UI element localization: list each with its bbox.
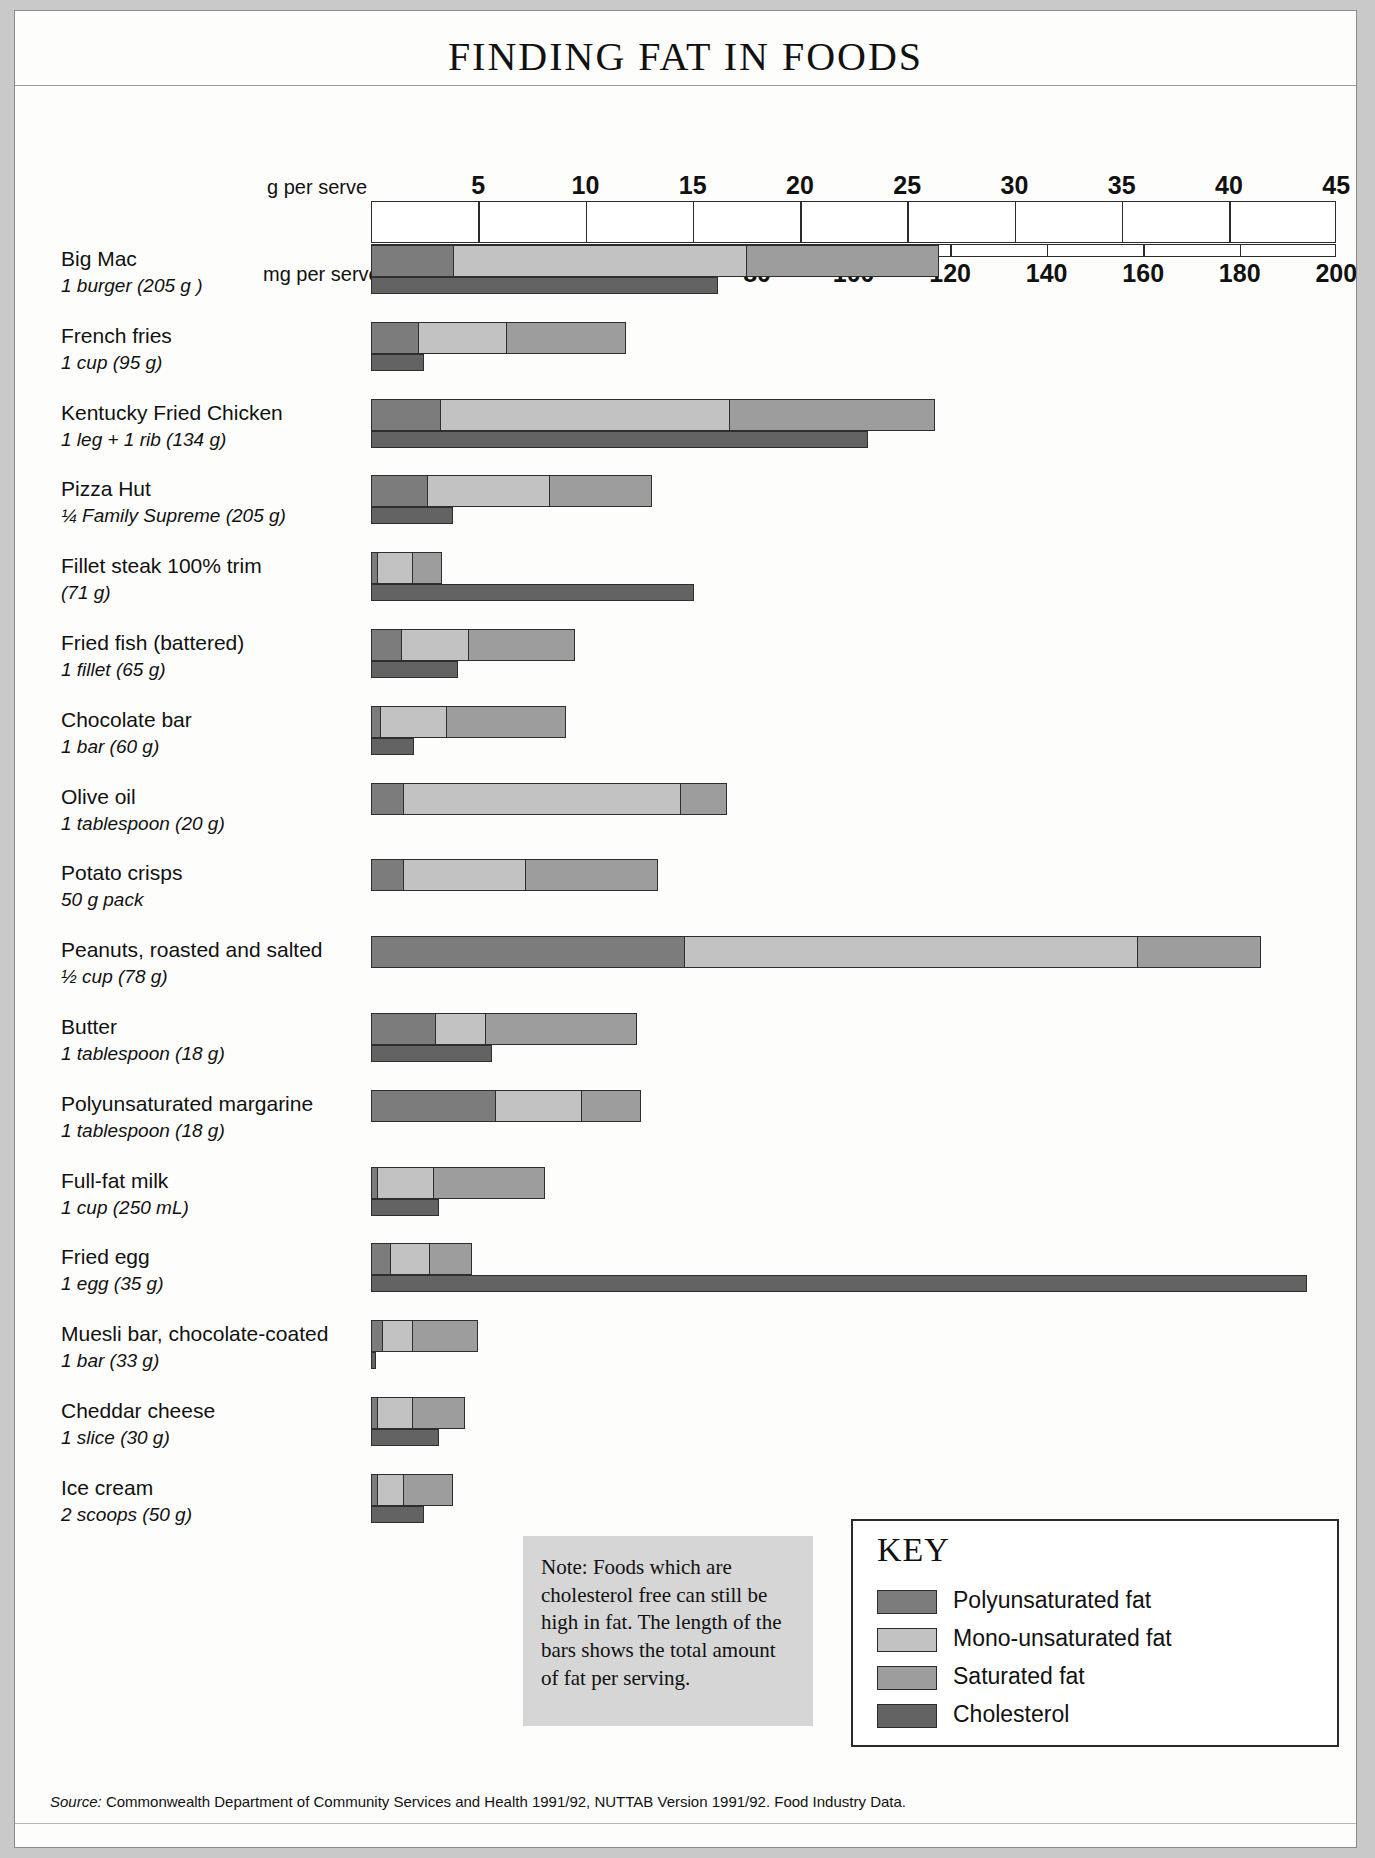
serving-size: (71 g)	[61, 582, 111, 604]
food-name: Peanuts, roasted and salted	[61, 938, 323, 962]
serving-size: 1 tablespoon (18 g)	[61, 1043, 225, 1065]
cholesterol-bar[interactable]	[371, 354, 424, 371]
fat-bar[interactable]	[371, 322, 626, 354]
g-tick-label: 40	[1215, 171, 1243, 200]
g-gridline	[1015, 201, 1017, 243]
fat-bar[interactable]	[371, 1243, 472, 1275]
segment-polyunsaturated	[371, 1243, 390, 1275]
serving-size: ¼ Family Supreme (205 g)	[61, 505, 286, 527]
g-gridline	[1229, 201, 1231, 243]
segment-saturated	[506, 322, 626, 354]
segment-mono-unsaturated	[440, 399, 730, 431]
g-gridline	[907, 201, 909, 243]
fat-bar[interactable]	[371, 859, 658, 891]
segment-mono-unsaturated	[377, 1167, 433, 1199]
g-gridline	[1122, 201, 1124, 243]
segment-polyunsaturated	[371, 1013, 435, 1045]
legend-swatch	[877, 1590, 937, 1614]
legend-title: KEY	[877, 1531, 950, 1569]
cholesterol-bar[interactable]	[371, 661, 458, 678]
cholesterol-bar[interactable]	[371, 1506, 424, 1523]
cholesterol-bar[interactable]	[371, 431, 868, 448]
chart-row: Peanuts, roasted and salted½ cup (78 g)	[15, 964, 1356, 1041]
g-tick-label: 10	[572, 171, 600, 200]
cholesterol-bar[interactable]	[371, 277, 718, 294]
segment-saturated	[485, 1013, 637, 1045]
serving-size: 1 bar (60 g)	[61, 736, 159, 758]
cholesterol-bar[interactable]	[371, 507, 453, 524]
food-name: Potato crisps	[61, 861, 182, 885]
title-divider	[15, 85, 1356, 86]
cholesterol-bar[interactable]	[371, 584, 694, 601]
g-gridline	[478, 201, 480, 243]
segment-cholesterol	[371, 431, 868, 448]
fat-bar[interactable]	[371, 399, 935, 431]
serving-size: 1 burger (205 g )	[61, 275, 203, 297]
fat-bar[interactable]	[371, 783, 727, 815]
segment-mono-unsaturated	[377, 552, 411, 584]
fat-bar[interactable]	[371, 475, 652, 507]
fat-bar[interactable]	[371, 1013, 637, 1045]
cholesterol-bar[interactable]	[371, 1275, 1307, 1292]
g-tick-label: 20	[786, 171, 814, 200]
chart-row: Fried fish (battered)1 fillet (65 g)	[15, 657, 1356, 734]
segment-cholesterol	[371, 507, 453, 524]
legend-swatch	[877, 1666, 937, 1690]
fat-bar[interactable]	[371, 552, 442, 584]
fat-bar[interactable]	[371, 1397, 465, 1429]
legend: KEY Polyunsaturated fatMono-unsaturated …	[851, 1519, 1339, 1747]
segment-cholesterol	[371, 1275, 1307, 1292]
segment-polyunsaturated	[371, 783, 403, 815]
food-name: Full-fat milk	[61, 1169, 168, 1193]
fat-bar[interactable]	[371, 245, 939, 277]
serving-size: 1 cup (95 g)	[61, 352, 162, 374]
segment-cholesterol	[371, 1199, 439, 1216]
fat-bar[interactable]	[371, 1167, 545, 1199]
segment-mono-unsaturated	[390, 1243, 429, 1275]
cholesterol-bar[interactable]	[371, 1429, 439, 1446]
chart-row: Big Mac1 burger (205 g )	[15, 273, 1356, 350]
segment-polyunsaturated	[371, 1320, 382, 1352]
fat-bar[interactable]	[371, 936, 1261, 968]
segment-mono-unsaturated	[403, 859, 525, 891]
food-name: Kentucky Fried Chicken	[61, 401, 283, 425]
bottom-divider	[15, 1823, 1356, 1824]
g-gridline	[693, 201, 695, 243]
segment-cholesterol	[371, 1045, 492, 1062]
mg-gridline	[1047, 244, 1049, 257]
legend-label: Cholesterol	[953, 1701, 1069, 1728]
fat-bar[interactable]	[371, 1090, 641, 1122]
g-tick-label: 15	[679, 171, 707, 200]
serving-size: 50 g pack	[61, 889, 143, 911]
segment-saturated	[525, 859, 658, 891]
fat-bar[interactable]	[371, 706, 566, 738]
serving-size: 2 scoops (50 g)	[61, 1504, 192, 1526]
segment-polyunsaturated	[371, 399, 440, 431]
source-text: Commonwealth Department of Community Ser…	[106, 1793, 906, 1810]
segment-cholesterol	[371, 354, 424, 371]
mg-gridline	[1240, 244, 1242, 257]
food-name: Big Mac	[61, 247, 137, 271]
cholesterol-bar[interactable]	[371, 738, 414, 755]
segment-saturated	[433, 1167, 545, 1199]
segment-mono-unsaturated	[401, 629, 467, 661]
segment-polyunsaturated	[371, 859, 403, 891]
cholesterol-bar[interactable]	[371, 1045, 492, 1062]
fat-bar[interactable]	[371, 629, 575, 661]
segment-polyunsaturated	[371, 245, 453, 277]
legend-label: Saturated fat	[953, 1663, 1085, 1690]
food-name: Cheddar cheese	[61, 1399, 215, 1423]
segment-mono-unsaturated	[418, 322, 506, 354]
serving-size: 1 slice (30 g)	[61, 1427, 170, 1449]
segment-polyunsaturated	[371, 706, 380, 738]
segment-saturated	[403, 1474, 452, 1506]
cholesterol-bar[interactable]	[371, 1352, 376, 1369]
legend-label: Polyunsaturated fat	[953, 1587, 1151, 1614]
cholesterol-bar[interactable]	[371, 1199, 439, 1216]
segment-mono-unsaturated	[684, 936, 1137, 968]
poster: FINDING FAT IN FOODS g per serve mg per …	[14, 10, 1357, 1848]
mg-gridline	[1143, 244, 1145, 257]
fat-bar[interactable]	[371, 1320, 478, 1352]
segment-saturated	[729, 399, 935, 431]
fat-bar[interactable]	[371, 1474, 453, 1506]
